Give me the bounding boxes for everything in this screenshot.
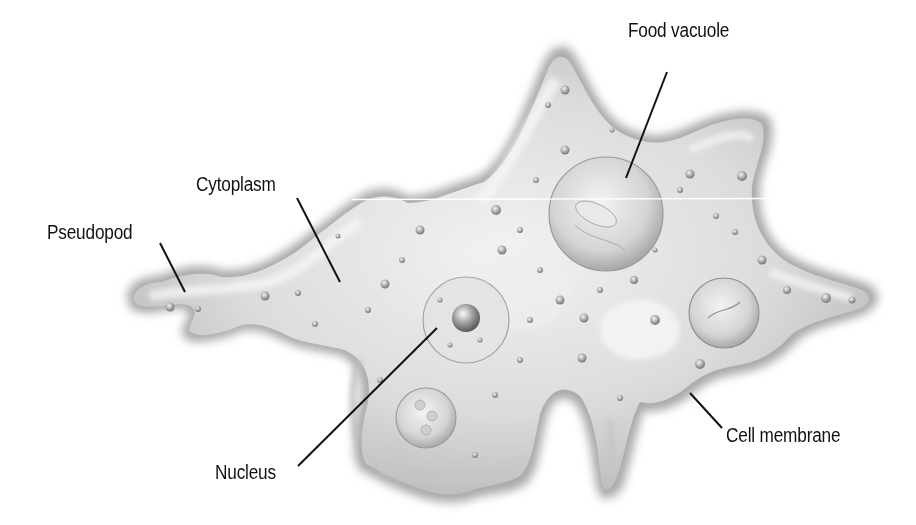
amoeba-diagram: Food vacuole Cytoplasm Pseudopod Nucleus… <box>0 0 916 525</box>
nucleus-organelle <box>423 277 509 363</box>
label-cytoplasm: Cytoplasm <box>196 174 276 194</box>
label-cell-membrane: Cell membrane <box>726 425 840 445</box>
label-nucleus: Nucleus <box>215 462 276 482</box>
vacuole-bottom <box>396 388 456 448</box>
leader-cell-membrane <box>690 393 722 428</box>
amoeba-illustration <box>0 0 916 525</box>
vacuole-right <box>689 278 759 348</box>
label-pseudopod: Pseudopod <box>47 222 132 242</box>
label-food-vacuole: Food vacuole <box>628 20 729 40</box>
food-vacuole-organelle <box>549 157 663 271</box>
